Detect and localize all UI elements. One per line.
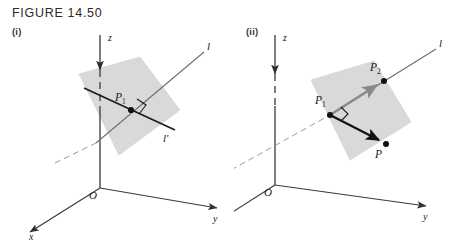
point-p-dot [383,141,389,147]
panel-ii-diagram: z y x O l P1 P2 P [234,0,468,244]
z-axis-label: z [107,32,112,43]
point-p-label: P [374,148,382,160]
z-axis-label: z [282,32,287,43]
point-p1-dot [128,107,134,113]
line-l-behind-plane [234,115,330,170]
y-axis-label: y [422,211,428,222]
x-axis-label: x [28,231,34,242]
y-axis [275,185,426,206]
figure-container: FIGURE 14.50 (i) (ii) z y x O l l' [0,0,468,244]
origin-label: O [89,189,97,201]
point-p1-dot [327,112,333,118]
line-l-behind-plane [55,143,96,163]
panel-i-diagram: z y x O l l' P1 [0,0,234,244]
y-axis [100,188,217,208]
y-axis-label: y [212,213,218,224]
plane-patch [311,61,411,160]
line-l-label: l [439,37,442,49]
point-p2-dot [381,78,387,84]
line-l-prime-label: l' [163,132,169,144]
line-l-label: l [207,40,210,52]
origin-label: O [264,186,272,198]
